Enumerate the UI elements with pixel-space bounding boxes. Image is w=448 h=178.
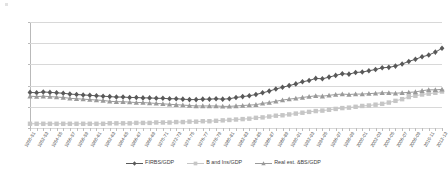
x-axis-tick-mark — [156, 128, 157, 131]
x-axis-tick-mark — [296, 128, 297, 131]
x-axis-tick-mark — [50, 128, 51, 131]
x-axis-tick-mark — [422, 128, 423, 131]
x-axis-tick-mark — [223, 128, 224, 131]
x-axis-tick-mark — [243, 128, 244, 131]
x-axis-tick-label: 1984-85 — [249, 131, 262, 148]
x-axis-tick-mark — [150, 128, 151, 131]
x-axis-tick-label: 1950-51 — [24, 131, 37, 148]
x-axis-tick-mark — [409, 128, 410, 131]
x-axis-tick-label: 1978-79 — [210, 131, 223, 148]
x-axis-tick-mark — [103, 128, 104, 131]
x-axis-tick-label: 2012-13 — [436, 131, 448, 148]
x-axis-tick-label: 1990-91 — [289, 131, 302, 148]
data-point-marker — [133, 161, 137, 166]
x-axis-tick-mark — [37, 128, 38, 131]
x-axis-tick-mark — [143, 128, 144, 131]
x-axis-tick-label: 2006-07 — [396, 131, 409, 148]
gridline — [30, 22, 442, 23]
x-axis-tick-mark — [435, 128, 436, 131]
x-axis-tick-label: 1958-59 — [77, 131, 90, 148]
x-axis-tick-mark — [302, 128, 303, 131]
x-axis-tick-label: 1962-63 — [103, 131, 116, 148]
x-axis-tick-label: 1952-53 — [37, 131, 50, 148]
x-axis-tick-label: 1972-73 — [170, 131, 183, 148]
x-axis-tick-mark — [209, 128, 210, 131]
gridline — [30, 86, 442, 87]
chart-legend: FIRBS/GDPB and Ins/GDPReal est. &BS/GDP — [0, 160, 447, 166]
y-axis-tick-mark — [28, 86, 30, 87]
x-axis-tick-label: 1988-89 — [276, 131, 289, 148]
x-axis-tick-label: 1964-65 — [117, 131, 130, 148]
x-axis-tick-label: 2000-01 — [356, 131, 369, 148]
x-axis-tick-label: 1980-81 — [223, 131, 236, 148]
x-axis-tick-label: 1992-93 — [303, 131, 316, 148]
y-axis-tick-mark — [28, 43, 30, 44]
gridline — [30, 107, 442, 108]
x-axis-tick-mark — [63, 128, 64, 131]
x-axis-tick-label: 1960-61 — [90, 131, 103, 148]
legend-label: B and Ins/GDP — [206, 160, 242, 165]
y-axis-tick-mark — [28, 64, 30, 65]
x-axis-tick-mark — [395, 128, 396, 131]
x-axis-tick-mark — [369, 128, 370, 131]
x-axis-tick-label: 1982-83 — [236, 131, 249, 148]
corner-marker-icon — [5, 3, 8, 6]
x-axis-tick-mark — [316, 128, 317, 131]
x-axis-tick-label: 1996-97 — [329, 131, 342, 148]
x-axis-tick-label: 1974-75 — [183, 131, 196, 148]
x-axis-tick-label: 2010-11 — [422, 131, 435, 148]
x-axis-tick-label: 2002-03 — [369, 131, 382, 148]
x-axis-tick-mark — [203, 128, 204, 131]
x-axis-tick-label: 1986-87 — [263, 131, 276, 148]
x-axis-tick-mark — [376, 128, 377, 131]
legend-item-2[interactable]: B and Ins/GDP — [187, 160, 242, 166]
x-axis-tick-label: 1976-77 — [196, 131, 209, 148]
x-axis-tick-label: 1970-71 — [156, 131, 169, 148]
data-point-marker — [194, 161, 198, 165]
x-axis-tick-label: 1966-67 — [130, 131, 143, 148]
x-axis-tick-mark — [389, 128, 390, 131]
x-axis-tick-mark — [276, 128, 277, 131]
x-axis-tick-mark — [196, 128, 197, 131]
y-axis-tick-mark — [28, 22, 30, 23]
gridline — [30, 43, 442, 44]
x-axis-tick-mark — [236, 128, 237, 131]
x-axis-tick-mark — [183, 128, 184, 131]
x-axis-tick-label: 2008-09 — [409, 131, 422, 148]
x-axis-tick-mark — [110, 128, 111, 131]
legend-marker-icon — [126, 160, 143, 166]
legend-label: FIRBS/GDP — [145, 160, 174, 165]
x-axis-tick-mark — [336, 128, 337, 131]
x-axis-tick-mark — [170, 128, 171, 131]
legend-item-3[interactable]: Real est. &BS/GDP — [255, 160, 321, 166]
legend-marker-icon — [187, 160, 204, 166]
legend-item-1[interactable]: FIRBS/GDP — [126, 160, 174, 166]
x-axis-tick-mark — [289, 128, 290, 131]
x-axis-tick-mark — [429, 128, 430, 131]
x-axis-tick-mark — [130, 128, 131, 131]
y-axis-tick-mark — [28, 107, 30, 108]
x-axis-tick-mark — [356, 128, 357, 131]
gridline — [30, 64, 442, 65]
x-axis-tick-label: 1994-95 — [316, 131, 329, 148]
x-axis-tick-label: 1954-55 — [50, 131, 63, 148]
x-axis-tick-mark — [283, 128, 284, 131]
x-axis-tick-mark — [382, 128, 383, 131]
plot-area — [30, 22, 442, 128]
data-point-marker — [261, 161, 265, 165]
x-axis-tick-mark — [90, 128, 91, 131]
x-axis-tick-label: 1968-69 — [143, 131, 156, 148]
x-axis-tick-label: 1956-57 — [63, 131, 76, 148]
x-axis-tick-mark — [263, 128, 264, 131]
x-axis-tick-mark — [342, 128, 343, 131]
x-axis-tick-label: 2004-05 — [382, 131, 395, 148]
x-axis-tick-mark — [116, 128, 117, 131]
x-axis-tick-label: 1998-99 — [343, 131, 356, 148]
x-axis-tick-mark — [249, 128, 250, 131]
x-axis-tick-mark — [57, 128, 58, 131]
legend-marker-icon — [255, 160, 272, 166]
x-axis-tick-mark — [329, 128, 330, 131]
x-axis-tick-mark — [77, 128, 78, 131]
legend-label: Real est. &BS/GDP — [274, 160, 321, 165]
